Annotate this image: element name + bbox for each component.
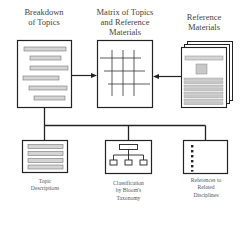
arrow-reference-to-matrix: [153, 74, 182, 79]
arrow-breakdown-to-matrix: [71, 73, 97, 78]
classification-node: [106, 141, 152, 174]
related-disciplines-node: [184, 141, 228, 174]
matrix-node: [98, 41, 153, 108]
related-disciplines-label: References to Related Disciplines: [173, 177, 239, 199]
stacked-documents-icon: [182, 42, 233, 108]
breakdown-node: [18, 41, 72, 108]
classification-label: Classification by Bloom's Taxonomy: [96, 180, 161, 202]
reference-node: [182, 42, 233, 108]
topic-descriptions-label: Topic Descriptions: [15, 178, 75, 193]
topic-descriptions-node: [23, 141, 68, 173]
connector-bus: [45, 107, 206, 140]
